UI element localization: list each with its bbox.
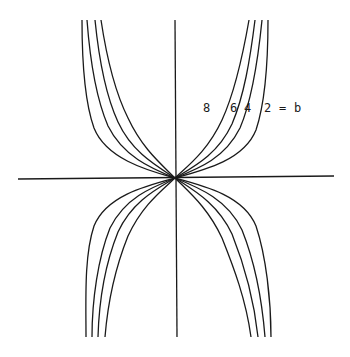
parameter-labels: 8 6 4 2 = b: [203, 101, 301, 115]
label-param-b: b: [294, 101, 301, 115]
curve-family-chart: 8 6 4 2 = b: [0, 0, 350, 357]
label-b6: 6: [230, 101, 237, 115]
label-b8: 8: [203, 101, 210, 115]
label-b4: 4: [244, 101, 251, 115]
label-equals: =: [279, 101, 286, 115]
label-b2: 2: [264, 101, 271, 115]
